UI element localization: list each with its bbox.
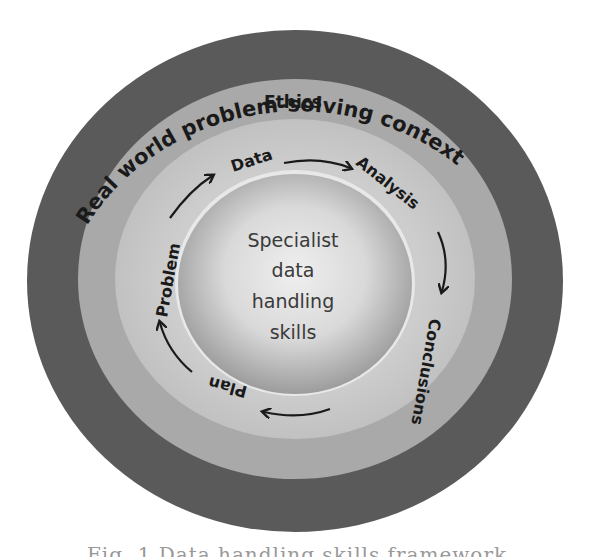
core-label-line-4: skills [270, 321, 317, 343]
ethics-label: Ethics [264, 92, 322, 112]
core-label-line-1: Specialist [247, 229, 338, 251]
core-sphere [178, 174, 412, 394]
core-label-line-2: data [272, 259, 315, 281]
figure-caption: Fig. 1 Data handling skills framework [0, 545, 594, 557]
concentric-framework-diagram: Real world problem-solving context Ethic… [0, 0, 594, 557]
core-label-line-3: handling [252, 290, 334, 312]
